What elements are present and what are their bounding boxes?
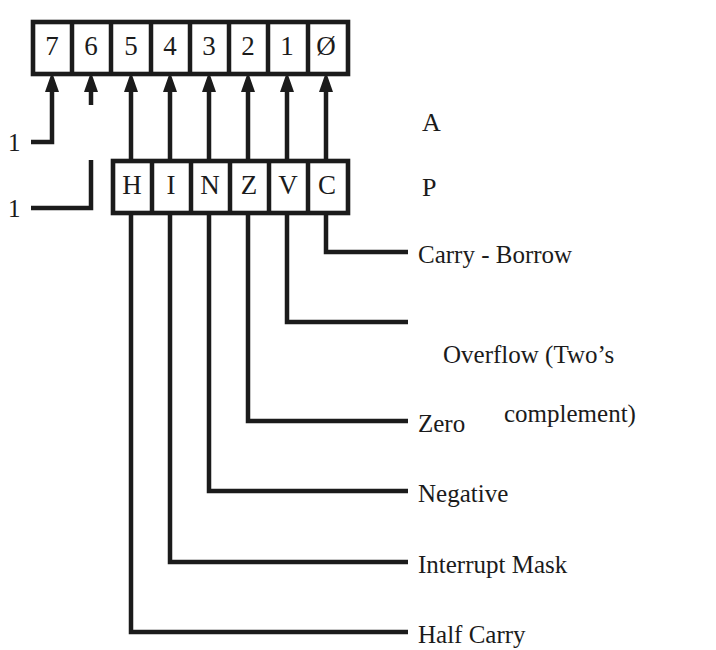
accumulator-bit-0: Ø	[316, 31, 336, 61]
bit-arrow-7	[45, 72, 59, 105]
flag-cell-c: C	[318, 170, 336, 200]
accumulator-bit-2: 2	[241, 31, 255, 61]
callout-label-half-carry: Half Carry	[418, 620, 526, 650]
flag-cell-h: H	[122, 170, 142, 200]
bit-arrow-6	[84, 72, 98, 105]
leader-negative	[209, 213, 408, 491]
accumulator-register-label: A	[422, 110, 441, 136]
accumulator-bit-3: 3	[202, 31, 216, 61]
accumulator-input-arrows	[45, 72, 333, 160]
bit-arrow-3	[202, 72, 216, 160]
flag-cell-v: V	[278, 170, 298, 200]
accumulator-bit-6: 6	[84, 31, 98, 61]
flag-cell-i: I	[167, 170, 176, 200]
flag-cell-z: Z	[241, 170, 258, 200]
callout-label-overflow-line1: Overflow (Two’s	[443, 341, 614, 368]
accumulator-register-box: 7 6 5 4 3 2 1 Ø	[33, 22, 348, 74]
callout-label-zero: Zero	[418, 409, 465, 439]
left-marker-1-bit7: 1	[8, 130, 21, 155]
callout-label-carry-borrow: Carry - Borrow	[418, 240, 572, 270]
leader-overflow	[287, 213, 408, 322]
marker-connector-bit7	[31, 105, 52, 142]
figure-canvas: 7 6 5 4 3 2 1 Ø H I N Z V C	[0, 0, 716, 650]
callout-label-interrupt-mask: Interrupt Mask	[418, 550, 567, 580]
callout-leader-lines	[131, 213, 408, 632]
bit-arrow-4	[163, 72, 177, 160]
bit-arrow-0	[319, 72, 333, 160]
bit-arrow-1	[280, 72, 294, 160]
callout-label-negative: Negative	[418, 479, 508, 509]
marker-connector-bit6	[31, 160, 91, 208]
accumulator-bit-1: 1	[280, 31, 294, 61]
condition-code-register-label: P	[422, 175, 436, 201]
flag-cell-n: N	[200, 170, 220, 200]
accumulator-bit-5: 5	[124, 31, 138, 61]
bit-arrow-2	[241, 72, 255, 160]
left-marker-connectors	[31, 105, 91, 208]
bit-arrow-5	[124, 72, 138, 160]
accumulator-bit-7: 7	[45, 31, 59, 61]
left-marker-1-bit6: 1	[8, 196, 21, 221]
accumulator-bit-4: 4	[163, 31, 177, 61]
callout-label-overflow: Overflow (Two’s complement)	[418, 310, 636, 487]
leader-carry-borrow	[326, 213, 408, 252]
condition-code-register-box: H I N Z V C	[113, 161, 348, 213]
